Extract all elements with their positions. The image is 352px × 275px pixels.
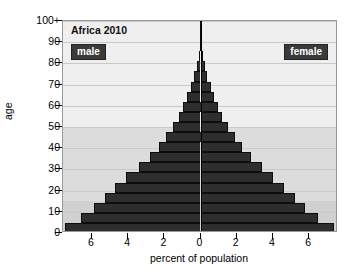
bar-male-10-14 [94, 203, 201, 213]
bar-male-30-34 [139, 162, 201, 172]
bar-male-5-9 [81, 213, 200, 223]
bar-male-70-74 [191, 82, 200, 92]
bar-female-60-64 [201, 102, 219, 112]
center-axis-line [201, 21, 202, 231]
bar-male-20-24 [115, 183, 200, 193]
y-tick-label: 70 [48, 78, 60, 90]
bar-female-65-69 [201, 92, 215, 102]
bar-male-50-54 [173, 122, 200, 132]
x-tick-label: 2 [233, 236, 239, 248]
chart-title: Africa 2010 [71, 24, 127, 36]
bar-female-70-74 [201, 82, 211, 92]
bar-female-0-4 [201, 223, 335, 232]
bar-female-45-49 [201, 132, 235, 142]
x-axis-title: percent of population [150, 252, 248, 264]
x-tick-label: 2 [160, 236, 166, 248]
bar-female-10-14 [201, 203, 306, 213]
bar-male-35-39 [150, 152, 201, 162]
y-tick-label: 50 [48, 120, 60, 132]
x-tick-label: 4 [269, 236, 275, 248]
y-tick-label: 90 [48, 35, 60, 47]
legend-label-female: female [284, 44, 328, 60]
bar-male-0-4 [65, 223, 201, 232]
x-tick-label: 0 [197, 236, 203, 248]
bar-female-40-44 [201, 142, 243, 152]
y-tick-label: 60 [48, 99, 60, 111]
bar-female-5-9 [201, 213, 319, 223]
bar-male-65-69 [187, 92, 200, 102]
y-tick-label: 80 [48, 56, 60, 68]
y-tick-label: 0 [54, 226, 60, 238]
bar-female-25-29 [201, 172, 273, 182]
bar-male-55-59 [179, 112, 201, 122]
bar-female-35-39 [201, 152, 252, 162]
plot-area: Africa 2010 male female [62, 20, 337, 232]
bar-female-20-24 [201, 183, 284, 193]
x-tick-label: 4 [124, 236, 130, 248]
population-pyramid-figure: age 0102030405060708090100+ Africa 2010 … [0, 0, 352, 275]
bar-female-30-34 [201, 162, 263, 172]
bar-male-25-29 [126, 172, 200, 182]
x-tick-label: 6 [305, 236, 311, 248]
bar-male-40-44 [159, 142, 201, 152]
y-tick-label: 30 [48, 162, 60, 174]
y-tick-label: 10 [48, 205, 60, 217]
bar-female-15-19 [201, 193, 295, 203]
y-axis-title: age [2, 102, 14, 120]
legend-label-male: male [71, 44, 106, 60]
bar-male-45-49 [166, 132, 200, 142]
x-tick-label: 6 [88, 236, 94, 248]
y-tick-label: 100+ [36, 14, 60, 26]
bar-male-15-19 [105, 193, 201, 203]
bar-male-60-64 [183, 102, 200, 112]
bar-female-50-54 [201, 122, 228, 132]
bar-female-55-59 [201, 112, 223, 122]
y-tick-label: 20 [48, 184, 60, 196]
y-tick-label: 40 [48, 141, 60, 153]
